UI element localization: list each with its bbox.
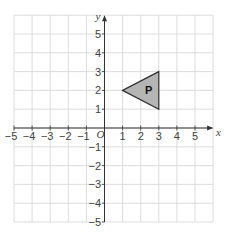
x-tick-label: 5 [192,130,198,142]
x-tick-label: −5 [5,130,18,142]
y-tick-label: 5 [95,28,101,40]
y-axis-label: y [95,10,101,22]
x-axis-label: x [215,126,221,138]
y-tick-label: −3 [88,178,101,190]
coordinate-grid: P x y O −5−4−3−2−112345 54321−1−2−3−4−5 [0,0,227,239]
grid-lines [14,15,213,222]
y-tick-label: 3 [95,66,101,78]
x-tick-label: −2 [59,130,72,142]
y-tick-label: −2 [88,160,101,172]
x-axis-arrow-icon [207,126,213,131]
x-tick-label: 1 [120,130,126,142]
y-axis-arrow-icon [102,15,107,21]
y-tick-label: −4 [88,197,101,209]
y-tick-label: 4 [95,47,101,59]
x-tick-label: 4 [174,130,180,142]
origin-label: O [97,128,105,140]
x-tick-label: 3 [156,130,162,142]
x-tick-label: −3 [41,130,54,142]
shape-p-label: P [145,84,152,96]
y-tick-label: −1 [88,141,101,153]
x-tick-label: 2 [138,130,144,142]
y-tick-label: −5 [88,216,101,228]
y-axis [102,15,107,222]
y-tick-label: 1 [95,103,101,115]
y-tick-label: 2 [95,84,101,96]
x-tick-label: −4 [23,130,36,142]
